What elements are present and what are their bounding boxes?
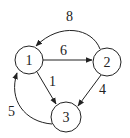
edge-2-to-1 — [36, 30, 100, 49]
edge-2-to-3 — [78, 75, 101, 106]
edge-weight-1-2: 6 — [60, 43, 67, 58]
edge-3-to-1 — [15, 73, 52, 124]
node-2-label: 2 — [104, 55, 111, 70]
node-3-label: 3 — [63, 110, 70, 125]
node-3: 3 — [51, 102, 81, 132]
node-1: 1 — [15, 46, 43, 74]
edge-weight-2-1: 8 — [66, 9, 73, 24]
graph-diagram: 8 6 1 4 5 1 2 3 — [0, 0, 130, 138]
edge-weight-1-3: 1 — [49, 74, 56, 89]
node-1-label: 1 — [26, 53, 33, 68]
node-2: 2 — [93, 48, 121, 76]
edge-weight-2-3: 4 — [99, 82, 106, 97]
edge-weight-3-1: 5 — [8, 104, 15, 119]
